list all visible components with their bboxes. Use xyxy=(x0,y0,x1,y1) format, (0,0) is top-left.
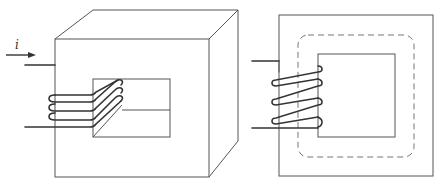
left-core-3d xyxy=(55,10,238,177)
diagram-canvas: i xyxy=(0,0,443,186)
core-inner-window xyxy=(318,54,395,137)
window-depth-diagonal xyxy=(93,105,122,137)
right-core-front xyxy=(279,15,433,176)
arrow-icon xyxy=(28,52,36,58)
left-coil xyxy=(25,65,123,127)
core-front-face xyxy=(55,39,209,177)
core-outer-boundary xyxy=(279,15,433,176)
coil-turn xyxy=(49,88,123,111)
core-diagram: i xyxy=(0,0,443,186)
coil-lead-bottom xyxy=(25,101,121,127)
mean-flux-path xyxy=(298,35,414,157)
core-top-face xyxy=(55,10,238,39)
current-indicator: i xyxy=(6,38,36,58)
coil-turn-end xyxy=(318,117,322,127)
current-label: i xyxy=(15,38,19,52)
right-coil xyxy=(252,61,322,128)
